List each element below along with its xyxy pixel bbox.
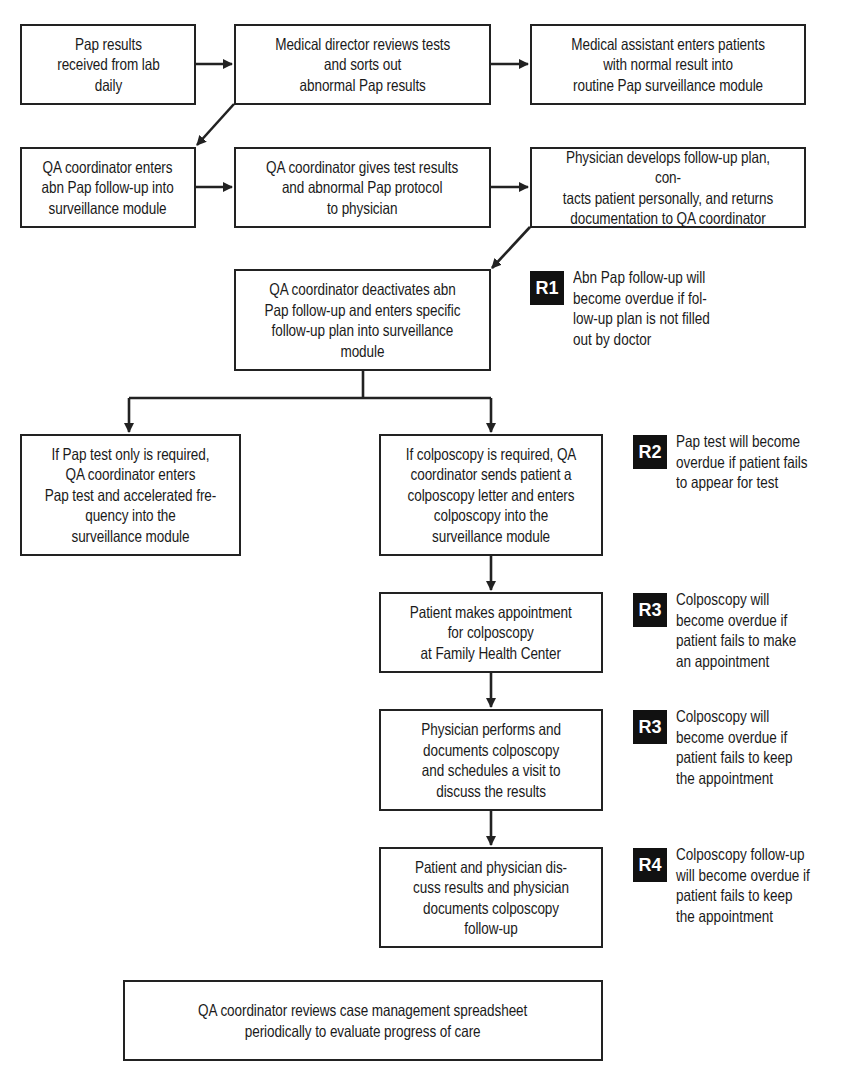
- note-text: Pap test will become overdue if patient …: [676, 431, 808, 493]
- pap-only-box: If Pap test only is required, QA coordin…: [20, 434, 241, 556]
- r2-badge: R2: [633, 435, 667, 469]
- note-text: Abn Pap follow-up will become overdue if…: [573, 267, 710, 349]
- box-text: QA coordinator gives test results and ab…: [266, 157, 458, 219]
- qa-reviews-box: QA coordinator reviews case management s…: [123, 980, 603, 1061]
- box-text: Medical assistant enters patients with n…: [571, 34, 765, 96]
- note-r3-make: R3 Colposcopy will become overdue if pat…: [633, 593, 823, 671]
- director-reviews-box: Medical director reviews tests and sorts…: [234, 24, 491, 105]
- box-text: If Pap test only is required, QA coordin…: [45, 444, 216, 547]
- r3-badge: R3: [633, 710, 667, 744]
- box-text: QA coordinator reviews case management s…: [198, 1000, 527, 1041]
- box-text: Medical director reviews tests and sorts…: [275, 34, 450, 96]
- note-text: Colposcopy will become overdue if patien…: [676, 706, 793, 788]
- pap-results-received-box: Pap results received from lab daily: [20, 24, 196, 105]
- r1-badge: R1: [530, 271, 564, 305]
- physician-develops-box: Physician develops follow-up plan, con- …: [530, 147, 806, 228]
- box-text: QA coordinator enters abn Pap follow-up …: [42, 157, 174, 219]
- assistant-enters-box: Medical assistant enters patients with n…: [530, 24, 806, 105]
- box-text: Patient and physician dis- cuss results …: [413, 857, 569, 939]
- qa-gives-box: QA coordinator gives test results and ab…: [234, 147, 491, 228]
- note-text: Colposcopy will become overdue if patien…: [676, 589, 796, 671]
- discuss-results-box: Patient and physician dis- cuss results …: [379, 847, 603, 948]
- box-text: Patient makes appointment for colposcopy…: [410, 602, 572, 664]
- note-r3-keep: R3 Colposcopy will become overdue if pat…: [633, 710, 818, 788]
- box-text: Pap results received from lab daily: [57, 34, 159, 96]
- qa-deactivates-box: QA coordinator deactivates abn Pap follo…: [234, 269, 491, 371]
- r3-badge: R3: [633, 593, 667, 627]
- qa-enters-box: QA coordinator enters abn Pap follow-up …: [20, 147, 196, 228]
- box-text: Physician performs and documents colposc…: [421, 719, 561, 801]
- r4-badge: R4: [633, 848, 667, 882]
- note-text: Colposcopy follow-up will become overdue…: [676, 844, 810, 926]
- box-text: Physician develops follow-up plan, con- …: [556, 147, 779, 229]
- note-r1: R1 Abn Pap follow-up will become overdue…: [530, 271, 740, 349]
- note-r2: R2 Pap test will become overdue if patie…: [633, 435, 837, 493]
- box-text: If colposcopy is required, QA coordinato…: [406, 444, 577, 547]
- note-r4: R4 Colposcopy follow-up will become over…: [633, 848, 839, 926]
- box-text: QA coordinator deactivates abn Pap follo…: [265, 279, 461, 361]
- colposcopy-required-box: If colposcopy is required, QA coordinato…: [379, 434, 603, 556]
- patient-appointment-box: Patient makes appointment for colposcopy…: [379, 592, 603, 673]
- physician-performs-box: Physician performs and documents colposc…: [379, 709, 603, 811]
